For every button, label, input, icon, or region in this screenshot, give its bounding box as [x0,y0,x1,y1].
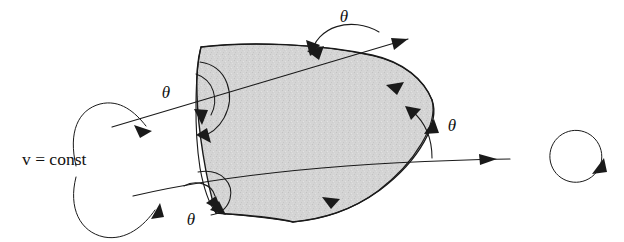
figure-root: v = const θ θ θ θ [0,0,624,242]
theta-label-bottom: θ [187,210,195,229]
region-outline [197,44,434,222]
v-const-label: v = const [22,149,86,169]
lower-line-arrowhead [479,154,497,165]
geometry-diagram: v = const θ θ θ θ [0,0,624,242]
leader-lower-arrowhead [151,203,164,219]
orientation-arrow [550,130,607,182]
theta-label-left: θ [162,83,170,102]
upper-line-arrowhead [391,38,408,50]
theta-label-right: θ [448,116,456,135]
shaded-curvilinear-region [197,44,434,222]
orientation-circle-arc [550,130,602,182]
leader-lower-curve [74,177,155,238]
leader-to-lower-line [74,177,164,238]
leader-upper-arrowhead [134,125,152,138]
orientation-arrowhead [592,158,607,174]
theta-label-top: θ [340,7,348,26]
